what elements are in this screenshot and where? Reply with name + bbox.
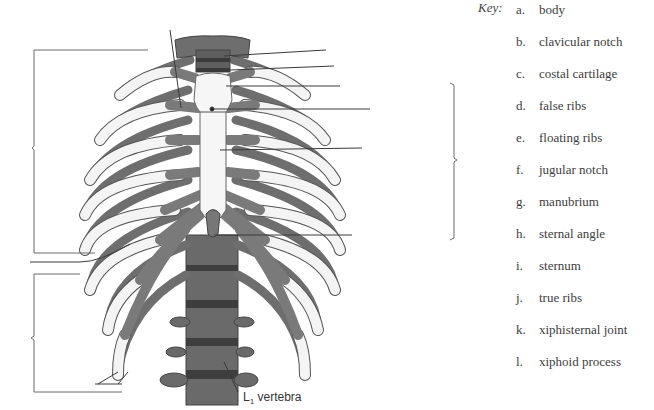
l1-vertebra-label: L1 vertebra bbox=[243, 390, 302, 406]
bracket-false-ribs bbox=[450, 83, 457, 240]
vertebral-column bbox=[160, 235, 258, 405]
clavicle-stumps bbox=[175, 36, 250, 72]
rib-cage-illustration bbox=[0, 0, 654, 410]
